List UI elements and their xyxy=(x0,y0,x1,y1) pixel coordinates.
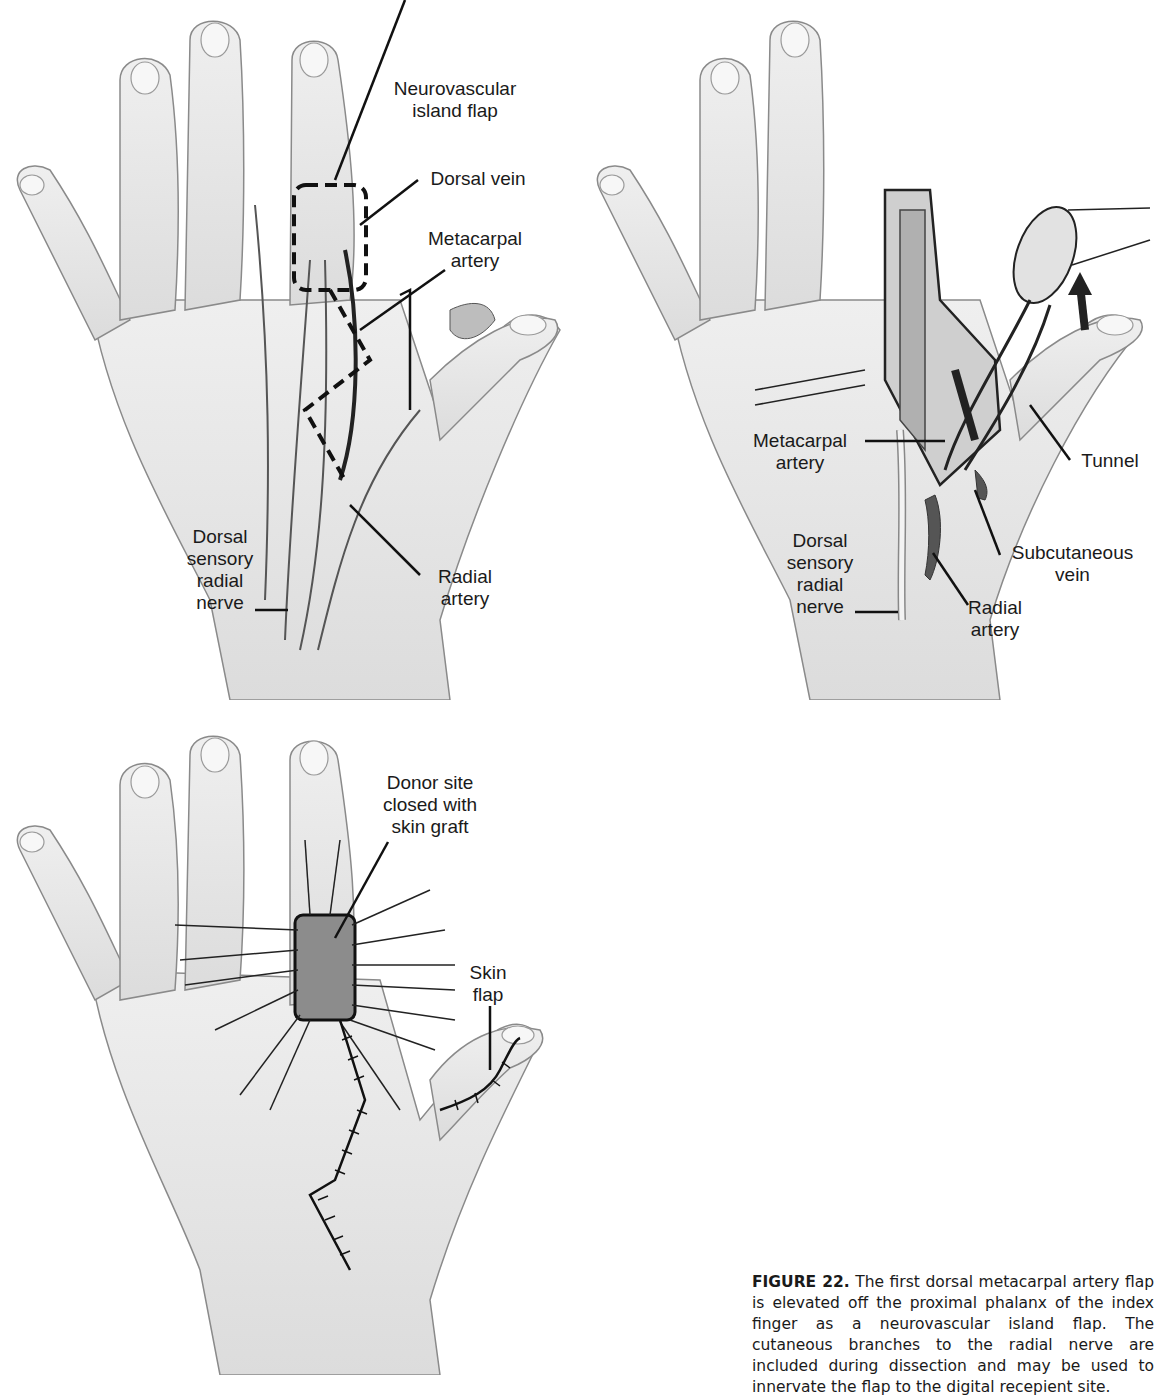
label-subcutaneous-vein: Subcutaneous vein xyxy=(1000,542,1145,586)
label-dorsal-vein: Dorsal vein xyxy=(418,168,538,190)
label-radial-artery: Radial artery xyxy=(420,566,510,610)
figure-caption: FIGURE 22. The first dorsal metacarpal a… xyxy=(752,1272,1154,1398)
skin-graft xyxy=(295,915,355,1020)
panel-c-hand-illustration: Donor site closed with skin graft Skin f… xyxy=(0,700,580,1375)
label-radial-artery-b: Radial artery xyxy=(950,597,1040,641)
figure-number: FIGURE 22. xyxy=(752,1273,850,1291)
label-metacarpal-artery-b: Metacarpal artery xyxy=(740,430,860,474)
label-metacarpal-artery: Metacarpal artery xyxy=(420,228,530,272)
panel-b-hand-illustration: Metacarpal artery Tunnel Dorsal sensory … xyxy=(580,0,1157,700)
label-tunnel: Tunnel xyxy=(1075,450,1145,472)
label-skin-flap: Skin flap xyxy=(458,962,518,1006)
label-dorsal-sensory-radial-nerve-b: Dorsal sensory radial nerve xyxy=(775,530,865,618)
label-neurovascular-island-flap: Neurovascular island flap xyxy=(385,78,525,122)
hand-closed-graft-drawing xyxy=(0,700,580,1375)
hand-flap-tunneled-drawing xyxy=(580,0,1157,700)
label-dorsal-sensory-radial-nerve: Dorsal sensory radial nerve xyxy=(180,526,260,614)
caption-text: The first dorsal metacarpal artery flap … xyxy=(752,1273,1154,1396)
label-donor-site: Donor site closed with skin graft xyxy=(370,772,490,838)
panel-a-hand-illustration: Neurovascular island flap Dorsal vein Me… xyxy=(0,0,580,700)
